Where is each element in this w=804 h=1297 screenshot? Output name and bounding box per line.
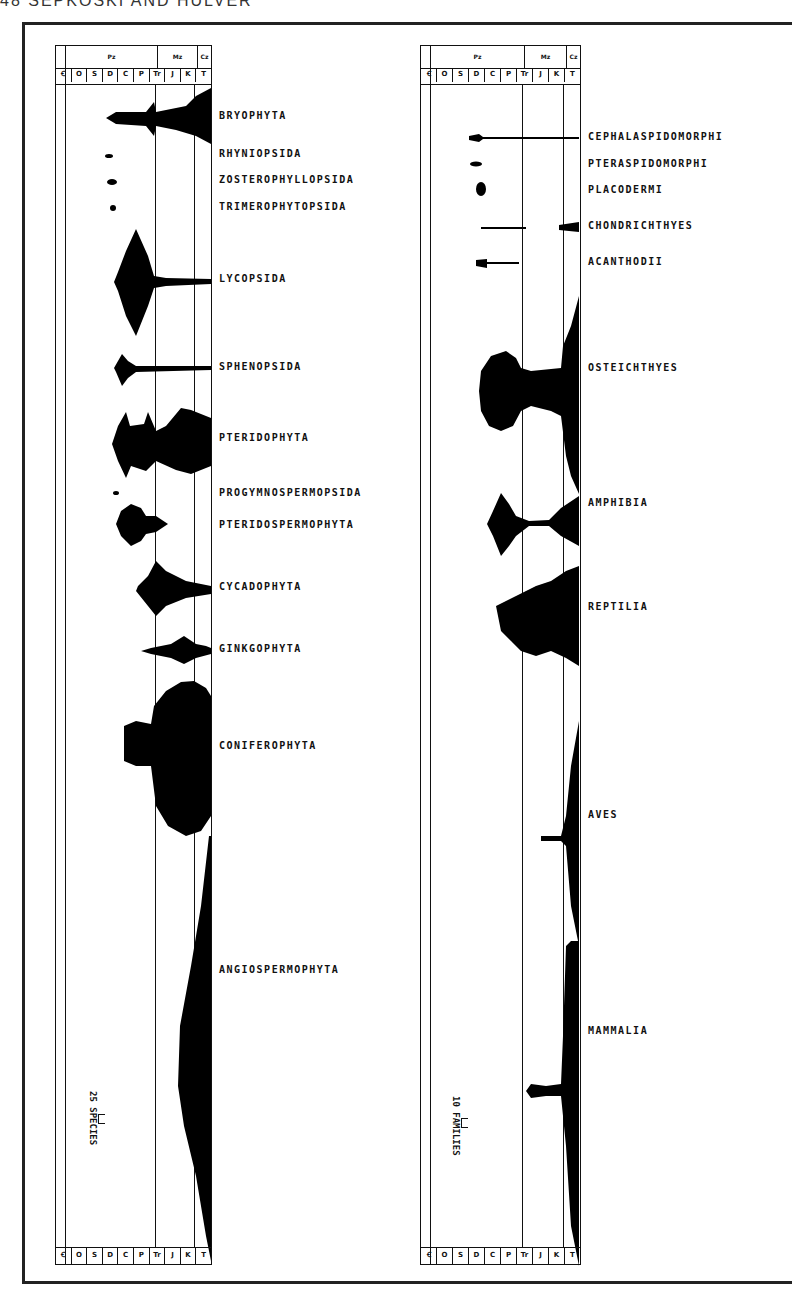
coniferophyta-spindle bbox=[124, 681, 211, 836]
ginkgophyta-spindle bbox=[141, 636, 211, 664]
aves-spindle bbox=[541, 721, 579, 946]
taxon-label: SPHENOPSIDA bbox=[219, 361, 302, 372]
running-head: 48 SEPKOSKI AND HULVER bbox=[0, 0, 253, 10]
period-label: O bbox=[437, 1248, 453, 1264]
acanthodii-spindle bbox=[476, 259, 519, 268]
taxon-label: CYCADOPHYTA bbox=[219, 581, 302, 592]
pteridospermophyta-spindle bbox=[116, 504, 168, 546]
zosterophyllopsida-spindle bbox=[107, 179, 117, 185]
osteichthyes-spindle bbox=[479, 296, 579, 494]
progymnospermopsida-spindle bbox=[113, 491, 119, 495]
taxon-label: OSTEICHTHYES bbox=[588, 362, 678, 373]
period-label: P bbox=[134, 1248, 150, 1264]
taxon-label: RHYNIOPSIDA bbox=[219, 148, 302, 159]
scale-bar-species bbox=[98, 1114, 105, 1124]
taxon-label: PROGYMNOSPERMOPSIDA bbox=[219, 487, 362, 498]
rhyniopsida-spindle bbox=[105, 154, 113, 158]
taxon-label: CHONDRICHTHYES bbox=[588, 220, 693, 231]
scale-label-families: 10 FAMILIES bbox=[451, 1096, 461, 1156]
reptilia-spindle bbox=[496, 566, 579, 666]
scale-label-species: 25 SPECIES bbox=[88, 1091, 98, 1145]
taxon-label: CONIFEROPHYTA bbox=[219, 740, 317, 751]
taxon-label: PTERASPIDOMORPHI bbox=[588, 158, 708, 169]
angiospermophyta-spindle bbox=[178, 836, 211, 1261]
period-label: P bbox=[501, 1248, 517, 1264]
pteridophyta-spindle bbox=[112, 408, 211, 478]
period-label: K bbox=[549, 1248, 565, 1264]
period-label: Tr bbox=[517, 1248, 533, 1264]
taxon-label: AVES bbox=[588, 809, 618, 820]
taxon-label: PLACODERMI bbox=[588, 184, 663, 195]
period-label: D bbox=[469, 1248, 485, 1264]
plant-spindle-shapes bbox=[56, 46, 213, 1266]
amphibia-spindle bbox=[487, 493, 579, 556]
vertebrate-spindle-shapes bbox=[421, 46, 582, 1266]
period-label: S bbox=[453, 1248, 469, 1264]
period-label: T bbox=[196, 1248, 211, 1264]
taxon-label: LYCOPSIDA bbox=[219, 273, 287, 284]
taxon-label: TRIMEROPHYTOPSIDA bbox=[219, 201, 347, 212]
taxon-label: REPTILIA bbox=[588, 601, 648, 612]
taxon-label: ANGIOSPERMOPHYTA bbox=[219, 964, 339, 975]
taxon-label: PTERIDOSPERMOPHYTA bbox=[219, 519, 354, 530]
plants-spindle-panel: Pz Mz Cz Ꞓ O S D C P Tr J K T bbox=[55, 45, 212, 1265]
taxon-label: ZOSTEROPHYLLOPSIDA bbox=[219, 174, 354, 185]
chondrichthyes-spindle bbox=[481, 222, 579, 232]
bryophyta-spindle bbox=[106, 88, 211, 144]
period-label: T bbox=[565, 1248, 580, 1264]
bottom-timescale: Ꞓ O S D C P Tr J K T bbox=[421, 1247, 580, 1264]
period-label: J bbox=[165, 1248, 181, 1264]
scale-bar-families bbox=[461, 1118, 468, 1128]
period-label: D bbox=[103, 1248, 119, 1264]
period-label: S bbox=[87, 1248, 103, 1264]
bottom-timescale: Ꞓ O S D C P Tr J K T bbox=[56, 1247, 211, 1264]
period-label: Tr bbox=[150, 1248, 166, 1264]
placodermi-spindle bbox=[476, 182, 486, 196]
taxon-label: GINKGOPHYTA bbox=[219, 643, 302, 654]
taxon-label: CEPHALASPIDOMORPHI bbox=[588, 131, 723, 142]
taxon-label: AMPHIBIA bbox=[588, 497, 648, 508]
period-label: O bbox=[72, 1248, 88, 1264]
period-label: K bbox=[181, 1248, 197, 1264]
cycadophyta-spindle bbox=[136, 561, 211, 616]
pteraspidomorphi-spindle bbox=[470, 162, 482, 167]
period-label: Ꞓ bbox=[421, 1248, 437, 1264]
taxon-label: BRYOPHYTA bbox=[219, 110, 287, 121]
period-label: J bbox=[533, 1248, 549, 1264]
taxon-label: PTERIDOPHYTA bbox=[219, 432, 309, 443]
period-label: C bbox=[118, 1248, 134, 1264]
taxon-label: ACANTHODII bbox=[588, 256, 663, 267]
period-label: C bbox=[485, 1248, 501, 1264]
sphenopsida-spindle bbox=[114, 354, 211, 386]
taxon-label: MAMMALIA bbox=[588, 1025, 648, 1036]
mammalia-spindle bbox=[526, 941, 579, 1266]
cephalaspidomorphi-spindle bbox=[469, 134, 579, 142]
lycopsida-spindle bbox=[114, 229, 211, 336]
vertebrates-spindle-panel: Pz Mz Cz Ꞓ O S D C P Tr J K T bbox=[420, 45, 581, 1265]
period-label: Ꞓ bbox=[56, 1248, 72, 1264]
trimerophytopsida-spindle bbox=[110, 205, 116, 211]
